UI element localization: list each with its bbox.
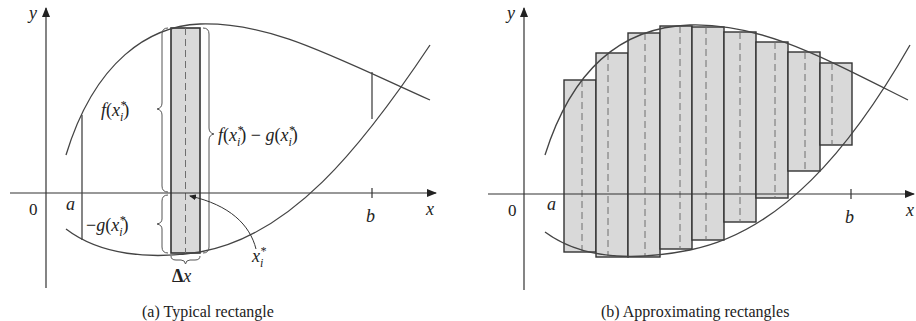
- approximating-rectangles: [564, 26, 852, 257]
- rectangle-5: [692, 27, 724, 240]
- rectangle-4: [660, 26, 692, 249]
- x-axis-label: x: [425, 199, 434, 219]
- b-label: b: [366, 206, 375, 226]
- f-value-label: f(x*i): [101, 98, 129, 124]
- a-label: a: [547, 194, 556, 214]
- rectangle-8: [788, 52, 820, 171]
- rectangle-7: [756, 42, 788, 198]
- y-axis-label: y: [505, 3, 515, 23]
- rectangle-3: [628, 33, 660, 257]
- a-label: a: [66, 194, 75, 214]
- caption-panel-b: (b) Approximating rectangles: [601, 303, 789, 321]
- brace-dx: [171, 256, 200, 264]
- delta-x-label: Δx: [172, 266, 191, 286]
- difference-label: f(x*i) − g(x*i): [218, 123, 298, 149]
- panel-b: y x 0 a b: [488, 3, 914, 290]
- sample-point-label: x*i: [251, 244, 266, 270]
- origin-label: 0: [508, 201, 517, 220]
- rectangle-9: [820, 63, 852, 145]
- brace-f: [157, 28, 168, 192]
- brace-neg-g: [157, 195, 168, 253]
- caption-panel-a: (a) Typical rectangle: [142, 303, 274, 321]
- x-axis-label: x: [905, 200, 914, 220]
- rectangle-1: [564, 80, 596, 252]
- brace-diff: [203, 28, 214, 253]
- panel-a: y x 0 a b f(x*i) −g(x*i) f(x*i) − g(x*i)…: [10, 3, 436, 288]
- rectangle-2: [596, 53, 628, 257]
- neg-g-value-label: −g(x*i): [86, 213, 129, 239]
- origin-label: 0: [29, 200, 38, 219]
- b-label: b: [845, 207, 854, 227]
- y-axis-label: y: [27, 3, 37, 23]
